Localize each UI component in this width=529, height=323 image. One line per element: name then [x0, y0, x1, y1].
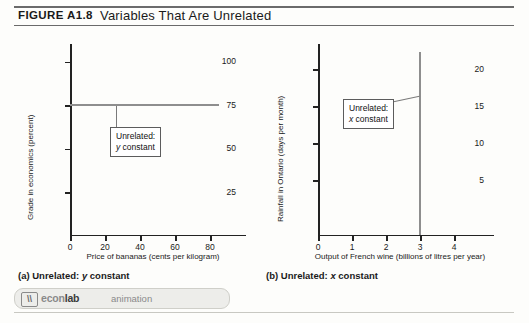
panel-b-x-label-3: 3	[410, 242, 430, 252]
panel-b-x-label-4: 4	[444, 242, 464, 252]
chart-panel-b: Rainfall in Ontario (days per month) 20 …	[262, 34, 517, 274]
panel-a-x-axis-title: Price of bananas (cents per kilogram)	[48, 252, 258, 261]
panel-b-callout: Unrelated: x constant	[343, 99, 394, 129]
figure-page: FIGURE A1.8 Variables That Are Unrelated…	[0, 0, 529, 323]
panel-b-caption-suffix: constant	[336, 270, 378, 281]
econlab-logo-icon: \\	[21, 292, 38, 307]
header-rule-bottom	[14, 25, 514, 26]
panel-a-callout-line1: Unrelated:	[116, 131, 155, 141]
panel-b-x-tick-2	[386, 236, 388, 241]
panel-b-y-label-10: 10	[475, 138, 484, 148]
panel-b-y-tick-20	[313, 69, 318, 71]
panel-a-y-axis	[70, 44, 72, 236]
econlab-footer-bar[interactable]: \\ econlab animation	[14, 288, 230, 309]
panel-a-callout-leader	[116, 106, 117, 128]
panel-a-x-tick-0	[70, 236, 72, 241]
chart-panel-a: Grade in economics (percent) 100 75 50 2…	[14, 34, 264, 274]
panel-a-y-tick-50	[65, 149, 70, 151]
panel-a-x-label-60: 60	[165, 242, 185, 252]
panel-a-y-axis-title: Grade in economics (percent)	[26, 115, 35, 220]
panel-b-y-tick-15	[313, 106, 318, 108]
panel-b-caption: (b) Unrelated: x constant	[266, 270, 378, 281]
panel-b-x-tick-1	[352, 236, 354, 241]
panel-b-x-axis	[318, 235, 494, 237]
panel-a-x-tick-20	[105, 236, 107, 241]
panel-a-y-tick-25	[65, 192, 70, 194]
panel-a-y-label-100: 100	[222, 56, 236, 66]
panel-b-x-label-2: 2	[376, 242, 396, 252]
panel-b-x-axis-title: Output of French wine (billions of litre…	[284, 252, 516, 261]
footer-rule	[14, 312, 514, 313]
panel-a-caption: (a) Unrelated: y constant	[18, 270, 129, 281]
panel-b-x-tick-3	[420, 236, 422, 241]
panel-a-y-label-75: 75	[227, 100, 236, 110]
econlab-brand-suffix: lab	[65, 292, 80, 304]
panel-b-x-tick-0	[318, 236, 320, 241]
panel-a-y-label-50: 50	[227, 143, 236, 153]
panel-b-x-label-0: 0	[308, 242, 328, 252]
panel-a-caption-prefix: (a) Unrelated:	[18, 270, 82, 281]
panel-b-y-axis-title: Rainfall in Ontario (days per month)	[276, 96, 285, 222]
panel-b-data-line	[419, 52, 421, 235]
econlab-brand-prefix: econ	[41, 292, 65, 304]
panel-b-caption-prefix: (b) Unrelated:	[266, 270, 330, 281]
panel-b-callout-line1: Unrelated:	[349, 103, 388, 113]
panel-a-x-label-20: 20	[95, 242, 115, 252]
panel-a-caption-suffix: constant	[87, 270, 129, 281]
panel-a-x-label-80: 80	[200, 242, 220, 252]
panel-a-x-axis	[70, 235, 246, 237]
panel-b-y-tick-10	[313, 143, 318, 145]
econlab-brand-label: econlab	[41, 292, 79, 304]
figure-header: FIGURE A1.8 Variables That Are Unrelated	[14, 6, 514, 26]
panel-a-x-tick-80	[210, 236, 212, 241]
panel-a-data-line	[70, 104, 219, 106]
panel-b-callout-leader	[390, 96, 420, 103]
panel-a-callout: Unrelated: y constant	[110, 127, 161, 157]
panel-b-y-label-5: 5	[479, 175, 484, 185]
figure-label: FIGURE A1.8	[18, 9, 93, 21]
panel-b-y-axis	[318, 44, 320, 236]
panel-a-x-label-40: 40	[130, 242, 150, 252]
panel-b-y-label-20: 20	[475, 64, 484, 74]
panel-b-y-label-15: 15	[475, 101, 484, 111]
panel-a-x-label-0: 0	[60, 242, 80, 252]
panel-a-y-tick-100	[65, 62, 70, 64]
panel-b-plot-area: 20 15 10 5 0 1 2 3 4 Unrelated: x consta…	[318, 44, 494, 236]
panel-a-x-tick-60	[175, 236, 177, 241]
panel-a-callout-line2-rest: constant	[120, 142, 155, 152]
panel-b-x-label-1: 1	[342, 242, 362, 252]
panel-b-x-tick-4	[454, 236, 456, 241]
panel-b-y-tick-5	[313, 180, 318, 182]
figure-title: Variables That Are Unrelated	[100, 8, 271, 23]
panel-a-plot-area: 100 75 50 25 0 20 40 60 80 Unrelated: y …	[70, 44, 246, 236]
panel-a-x-tick-40	[140, 236, 142, 241]
panel-b-callout-line2-rest: constant	[353, 114, 388, 124]
animation-link[interactable]: animation	[111, 293, 152, 304]
panel-a-y-label-25: 25	[227, 187, 236, 197]
